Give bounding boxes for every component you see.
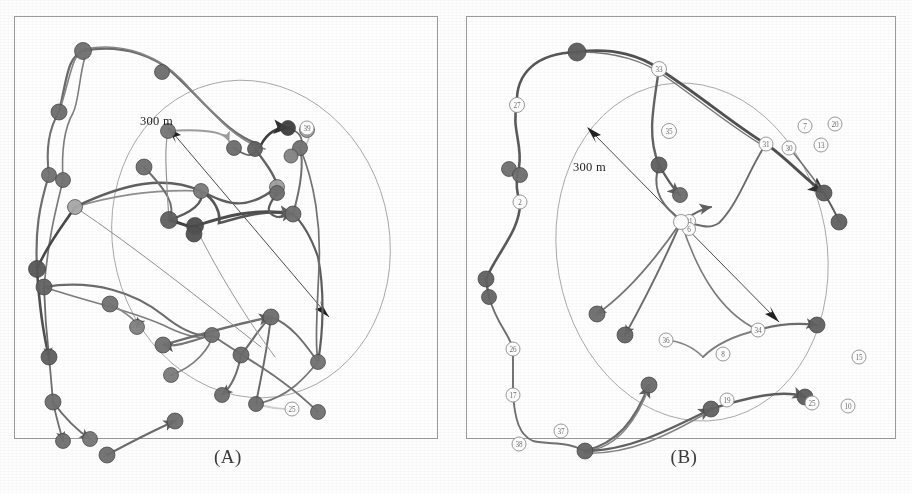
node-filled	[164, 368, 179, 383]
node-filled	[311, 355, 326, 370]
node-filled	[75, 43, 92, 60]
node-filled	[482, 290, 497, 305]
node-filled	[641, 377, 657, 393]
node-label: 6	[687, 226, 691, 234]
node-filled	[215, 388, 230, 403]
node-label: 15	[855, 354, 863, 362]
node-filled	[41, 349, 57, 365]
node-filled	[136, 159, 152, 175]
node-filled	[809, 317, 825, 333]
node-label: 7	[803, 123, 807, 131]
node-filled	[249, 397, 264, 412]
node-filled	[161, 212, 178, 229]
panel-b-caption: (B)	[456, 446, 912, 468]
scale-label-b: 300 m	[573, 160, 606, 175]
trajectory-paths-b	[486, 51, 839, 451]
node-label: 30	[785, 145, 793, 153]
node-filled	[167, 413, 183, 429]
node-filled	[285, 206, 301, 222]
node-filled	[673, 188, 688, 203]
scale-label-a: 300 m	[140, 114, 173, 129]
node-label: 27	[513, 102, 521, 110]
node-filled	[568, 43, 586, 61]
node-filled	[478, 271, 494, 287]
node-label: 20	[831, 121, 839, 129]
figure-container: 3925 300 m (A)	[0, 0, 912, 493]
node-filled	[651, 157, 667, 173]
node-filled	[51, 104, 67, 120]
node-label: 36	[662, 337, 670, 345]
node-label: 37	[557, 428, 565, 436]
node-label: 8	[721, 351, 725, 359]
node-filled	[233, 347, 249, 363]
node-filled	[56, 173, 71, 188]
node-filled	[102, 296, 118, 312]
node-filled	[36, 279, 52, 295]
node-open	[674, 215, 689, 230]
node-label: 2	[518, 199, 522, 207]
node-label: 17	[509, 392, 517, 400]
node-filled	[703, 401, 719, 417]
trajectory-paths-a	[37, 47, 323, 455]
panel-a-nodes	[29, 43, 326, 464]
node-filled	[186, 226, 202, 242]
node-filled	[227, 141, 242, 156]
node-filled	[831, 214, 847, 230]
node-filled	[205, 328, 220, 343]
node-label: 25	[808, 400, 816, 408]
node-filled	[194, 184, 209, 199]
node-filled	[263, 309, 279, 325]
node-label: 39	[303, 125, 311, 133]
node-label: 13	[817, 142, 825, 150]
node-filled	[155, 65, 170, 80]
node-filled	[281, 121, 296, 136]
node-filled	[29, 261, 46, 278]
node-filled	[130, 320, 145, 335]
node-label: 33	[655, 66, 663, 74]
node-filled	[45, 394, 61, 410]
node-filled	[513, 168, 528, 183]
node-label: 19	[723, 397, 731, 405]
node-filled	[155, 337, 171, 353]
node-filled	[617, 327, 633, 343]
node-filled	[284, 149, 298, 163]
node-filled	[270, 186, 285, 201]
node-filled	[42, 168, 57, 183]
node-filled	[68, 200, 83, 215]
node-filled	[248, 142, 263, 157]
panel-a: 3925 300 m (A)	[0, 0, 456, 493]
node-label: 25	[288, 406, 296, 414]
node-filled	[83, 432, 98, 447]
reference-ellipse	[78, 50, 423, 427]
panel-b-nodes	[478, 43, 847, 459]
node-label: 35	[665, 128, 673, 136]
panel-b-drawing: 3327235313072013216363481519251026173837	[456, 0, 912, 493]
node-filled	[311, 405, 326, 420]
node-filled	[589, 306, 605, 322]
node-label: 26	[509, 346, 517, 354]
node-label: 10	[844, 403, 852, 411]
panel-b: 3327235313072013216363481519251026173837…	[456, 0, 912, 493]
node-label: 31	[762, 141, 770, 149]
panel-a-drawing: 3925	[0, 0, 456, 493]
panel-a-caption: (A)	[0, 446, 456, 468]
node-label: 34	[754, 327, 762, 335]
node-filled	[816, 185, 832, 201]
